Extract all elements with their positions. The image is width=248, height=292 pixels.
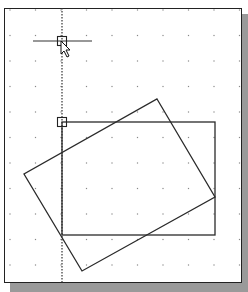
grid-dot xyxy=(162,9,163,10)
grid-dot xyxy=(213,86,214,87)
grid-dot xyxy=(239,188,240,189)
grid-dot xyxy=(188,188,189,189)
grid-dot xyxy=(162,264,163,265)
grid-dot xyxy=(86,35,87,36)
grid-dot xyxy=(86,188,87,189)
grid-dot xyxy=(213,60,214,61)
grid-dot xyxy=(188,137,189,138)
grid-dot xyxy=(86,111,87,112)
grid-dot xyxy=(162,239,163,240)
grid-dot xyxy=(111,35,112,36)
grid-dot xyxy=(86,264,87,265)
grid-dot xyxy=(111,264,112,265)
grid-dot xyxy=(239,86,240,87)
grid-dot xyxy=(60,111,61,112)
grid-dot xyxy=(35,188,36,189)
grid-dot xyxy=(162,60,163,61)
grid-dot xyxy=(137,60,138,61)
grid-dot xyxy=(239,213,240,214)
grid-dot xyxy=(162,86,163,87)
grid-dot xyxy=(239,35,240,36)
grid-dot xyxy=(9,162,10,163)
grid-dot xyxy=(188,9,189,10)
grid-dot xyxy=(162,162,163,163)
grid-dot xyxy=(9,137,10,138)
grid-dot xyxy=(213,264,214,265)
grid-dot xyxy=(137,9,138,10)
grid-dot xyxy=(111,239,112,240)
rotated-rectangle[interactable] xyxy=(24,99,215,271)
grid-dot xyxy=(35,86,36,87)
grid-dot xyxy=(137,162,138,163)
grid-dot xyxy=(188,213,189,214)
grid-dot xyxy=(111,86,112,87)
grid-dot xyxy=(86,213,87,214)
grid-dot xyxy=(9,239,10,240)
grid-dot xyxy=(60,264,61,265)
grid-dot xyxy=(188,111,189,112)
grid-dot xyxy=(111,9,112,10)
grid-dot xyxy=(9,86,10,87)
grid-dot xyxy=(111,60,112,61)
grid-dot xyxy=(188,239,189,240)
grid-dot xyxy=(137,35,138,36)
grid-dot xyxy=(188,86,189,87)
arrow-pointer-icon xyxy=(61,41,70,57)
grid-dot xyxy=(239,264,240,265)
grid-dot xyxy=(35,264,36,265)
grid-dot xyxy=(188,35,189,36)
grid-dot xyxy=(239,137,240,138)
grid-dot xyxy=(162,188,163,189)
grid-dot xyxy=(111,111,112,112)
grid-dots xyxy=(9,9,240,265)
grid-dot xyxy=(35,111,36,112)
grid-dot xyxy=(162,35,163,36)
grid-dot xyxy=(35,35,36,36)
grid-dot xyxy=(239,60,240,61)
grid-dot xyxy=(213,111,214,112)
grid-dot xyxy=(111,137,112,138)
grid-dot xyxy=(86,86,87,87)
grid-dot xyxy=(86,60,87,61)
grid-dot xyxy=(213,9,214,10)
grid-dot xyxy=(86,239,87,240)
grid-dot xyxy=(239,239,240,240)
grid-dot xyxy=(9,60,10,61)
grid-dot xyxy=(86,162,87,163)
grid-dot xyxy=(9,35,10,36)
grid-dot xyxy=(35,60,36,61)
grid-dot xyxy=(9,9,10,10)
drawing-canvas[interactable] xyxy=(0,0,248,292)
grid-dot xyxy=(9,213,10,214)
grid-dot xyxy=(137,188,138,189)
grid-dot xyxy=(213,239,214,240)
grid-dot xyxy=(111,213,112,214)
grid-dot xyxy=(35,213,36,214)
grid-dot xyxy=(137,213,138,214)
grid-dot xyxy=(35,162,36,163)
grid-dot xyxy=(239,162,240,163)
grid-dot xyxy=(137,86,138,87)
grid-dot xyxy=(9,264,10,265)
grid-dot xyxy=(137,264,138,265)
grid-dot xyxy=(188,264,189,265)
grid-dot xyxy=(60,9,61,10)
grid-dot xyxy=(35,137,36,138)
grid-dot xyxy=(188,162,189,163)
grid-dot xyxy=(239,111,240,112)
grid-dot xyxy=(137,137,138,138)
grid-dot xyxy=(35,239,36,240)
grid-dot xyxy=(213,35,214,36)
grid-dot xyxy=(162,137,163,138)
grid-dot xyxy=(9,188,10,189)
grid-dot xyxy=(9,111,10,112)
grid-dot xyxy=(162,213,163,214)
grid-dot xyxy=(111,188,112,189)
grid-dot xyxy=(137,111,138,112)
grid-dot xyxy=(111,162,112,163)
grid-dot xyxy=(60,60,61,61)
grid-dot xyxy=(162,111,163,112)
grid-dot xyxy=(188,60,189,61)
grid-dot xyxy=(239,9,240,10)
grid-dot xyxy=(35,9,36,10)
